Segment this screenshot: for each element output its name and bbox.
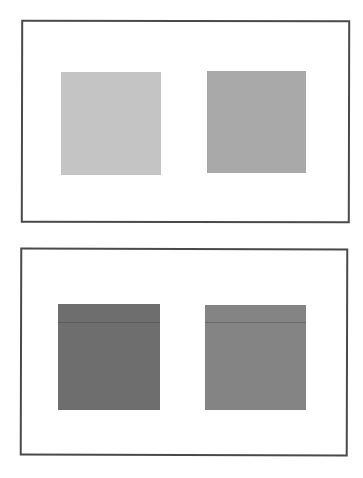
swatch-seam-line <box>58 322 160 323</box>
swatch-bottom-left <box>58 304 160 410</box>
swatch-bottom-right <box>205 305 306 410</box>
swatch-top-right <box>207 71 306 173</box>
swatch-top-left <box>61 72 161 175</box>
swatch-seam-line <box>205 322 306 323</box>
